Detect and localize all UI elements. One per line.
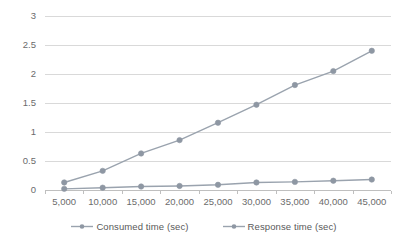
x-axis-tick-label: 35,000: [280, 196, 309, 207]
data-point-marker: [177, 183, 182, 188]
data-point-marker: [100, 168, 105, 173]
chart-plot-area: 00.511.522.53 5,00010,00015,00020,00025,…: [0, 0, 408, 247]
data-point-marker: [138, 151, 143, 156]
y-axis-tick-label: 0.5: [23, 155, 36, 166]
x-axis-tick-label: 10,000: [88, 196, 117, 207]
data-point-marker: [369, 48, 374, 53]
data-point-marker: [100, 185, 105, 190]
data-point-marker: [215, 120, 220, 125]
data-point-marker: [254, 102, 259, 107]
y-axis-tick-label: 1.5: [23, 97, 36, 108]
legend-marker-icon: [71, 222, 93, 231]
data-point-marker: [215, 182, 220, 187]
x-axis-tick-label: 40,000: [319, 196, 348, 207]
data-point-marker: [177, 137, 182, 142]
data-point-marker: [292, 179, 297, 184]
y-axis-tick-label: 2: [31, 68, 36, 79]
y-axis-tick-label: 3: [31, 10, 36, 21]
y-axis-tick-label: 2.5: [23, 39, 36, 50]
data-point-marker: [292, 82, 297, 87]
y-axis-tick-label: 0: [31, 184, 36, 195]
x-axis-tick-label: 25,000: [203, 196, 232, 207]
legend-item-response-time: Response time (sec): [223, 221, 337, 232]
y-axis-labels: 00.511.522.53: [23, 10, 36, 195]
chart-legend: Consumed time (sec) Response time (sec): [0, 221, 408, 232]
x-axis-line: [45, 191, 392, 195]
legend-label-consumed-time: Consumed time (sec): [96, 221, 188, 232]
data-point-marker: [331, 68, 336, 73]
legend-marker-icon: [223, 222, 245, 231]
x-axis-tick-label: 30,000: [242, 196, 271, 207]
x-axis-tick-label: 15,000: [127, 196, 156, 207]
y-axis-tick-label: 1: [31, 126, 36, 137]
gridlines: [45, 17, 391, 191]
x-axis-tick-label: 20,000: [165, 196, 194, 207]
legend-label-response-time: Response time (sec): [248, 221, 337, 232]
series-consumed-time: [62, 48, 375, 185]
data-point-marker: [369, 177, 374, 182]
x-axis-tick-label: 45,000: [357, 196, 386, 207]
x-axis-tick-label: 5,000: [52, 196, 76, 207]
line-chart: 00.511.522.53 5,00010,00015,00020,00025,…: [0, 0, 408, 247]
data-point-marker: [62, 186, 67, 191]
data-point-marker: [62, 180, 67, 185]
series-line: [64, 51, 372, 183]
x-axis-labels: 5,00010,00015,00020,00025,00030,00035,00…: [52, 196, 386, 207]
data-point-marker: [254, 180, 259, 185]
data-point-marker: [331, 178, 336, 183]
legend-item-consumed-time: Consumed time (sec): [71, 221, 188, 232]
data-point-marker: [138, 184, 143, 189]
series-response-time: [62, 177, 375, 192]
